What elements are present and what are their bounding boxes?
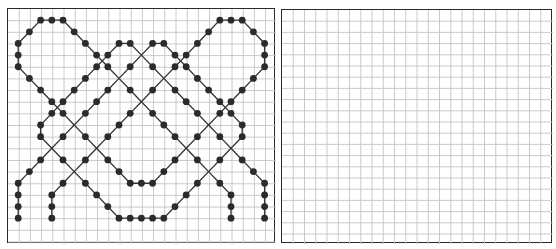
empty-grid [282,10,553,244]
pattern-dot [228,110,235,117]
pattern-dot [60,133,67,140]
pattern-dot [228,203,235,210]
pattern-dot [194,133,201,140]
pattern-dot [116,168,123,175]
pattern-dot [216,133,223,140]
pattern-dot [149,40,156,47]
empty-grid-panel[interactable] [281,9,552,243]
pattern-dot [104,87,111,94]
pattern-dot [216,180,223,187]
pattern-dot [239,157,246,164]
pattern-dot [239,17,246,24]
pattern-dot [15,215,22,222]
grid-lines [282,10,553,244]
pattern-dot [82,180,89,187]
pattern-dot [149,87,156,94]
pattern-dot [93,63,100,70]
pattern-dot [82,75,89,82]
pattern-dot [172,87,179,94]
pattern-dot [172,63,179,70]
pattern-dot [183,192,190,199]
pattern-dot [71,28,78,35]
pattern-dot [60,98,67,105]
pattern-dot [160,40,167,47]
pattern-dot [15,180,22,187]
pattern-dot [116,122,123,129]
pattern-dot [127,63,134,70]
pattern-dot [239,87,246,94]
pattern-dot [82,133,89,140]
pattern-dot [261,203,268,210]
pattern-dot [60,110,67,117]
pattern-dot [127,215,134,222]
pattern-dot [250,75,257,82]
pattern-dot [261,192,268,199]
pattern-dot [250,168,257,175]
pattern-dot [93,52,100,59]
pattern-dot [261,52,268,59]
pattern-dot [183,63,190,70]
pattern-dot [60,17,67,24]
pattern-dot [216,98,223,105]
pattern-dot [194,75,201,82]
pattern-dot [138,215,145,222]
pattern-dot [194,157,201,164]
pattern-dot [261,180,268,187]
pattern-dot [149,180,156,187]
pattern-dot [172,203,179,210]
pattern-dot [228,192,235,199]
pattern-dot [149,110,156,117]
pattern-dot [216,110,223,117]
pattern-dot [104,63,111,70]
dot-pattern-drawing [8,9,276,244]
pattern-dot [205,28,212,35]
pattern-dot [194,40,201,47]
pattern-dot [48,98,55,105]
pattern-dot [216,157,223,164]
pattern-dot [172,52,179,59]
pattern-dot [228,215,235,222]
pattern-dot [127,180,134,187]
pattern-dot [104,52,111,59]
pattern-dot [82,40,89,47]
pattern-dot [15,40,22,47]
pattern-dot [261,215,268,222]
pattern-dot [93,192,100,199]
pattern-dot [160,122,167,129]
pattern-dot [71,87,78,94]
pattern-dot [261,40,268,47]
pattern-dot [48,110,55,117]
pattern-dot [15,63,22,70]
pattern-dot [216,17,223,24]
pattern-dot [172,133,179,140]
pattern-dot [48,192,55,199]
pattern-dot [104,157,111,164]
pattern-dot [127,110,134,117]
pattern-dot [15,203,22,210]
pattern-dot [194,110,201,117]
grid-lines [8,9,276,244]
pattern-dot [15,52,22,59]
pattern-dot [149,215,156,222]
pattern-dot [116,215,123,222]
pattern-dot [60,180,67,187]
pattern-dot [239,122,246,129]
pattern-dot [60,157,67,164]
pattern-dot [48,17,55,24]
pattern-dot [93,98,100,105]
pattern-dot [194,180,201,187]
pattern-dot [149,63,156,70]
pattern-dot [160,215,167,222]
pattern-dot [261,63,268,70]
pattern-dot [15,192,22,199]
pattern-dot [26,28,33,35]
pattern-dot [183,52,190,59]
pattern-dot [205,87,212,94]
pattern-dot [48,215,55,222]
pattern-dot [127,87,134,94]
pattern-dot [104,133,111,140]
pattern-dot [138,180,145,187]
pattern-dot [228,17,235,24]
pattern-dot [26,168,33,175]
pattern-dot [160,168,167,175]
